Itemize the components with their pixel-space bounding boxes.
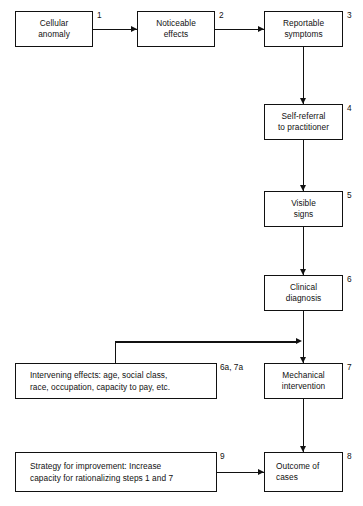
node-reportable-symptoms[interactable]: Reportable symptoms: [264, 11, 343, 47]
node-outcome-of-cases[interactable]: Outcome of cases: [264, 452, 343, 492]
node-label: Intervening effects: age, social class, …: [16, 369, 173, 394]
node-label: Clinical diagnosis: [283, 282, 325, 305]
arrowhead-6a7a-to-7: [296, 338, 302, 344]
node-noticeable-effects[interactable]: Noticeable effects: [137, 11, 215, 47]
node-strategy-for-improvement[interactable]: Strategy for improvement: Increase capac…: [15, 452, 217, 492]
edge-2-to-3: [215, 29, 264, 31]
node-self-referral[interactable]: Self-referral to practitioner: [264, 104, 343, 140]
node-tag-3: 3: [347, 11, 352, 20]
node-tag-6a-7a: 6a, 7a: [220, 363, 243, 372]
edge-4-to-5: [303, 140, 305, 191]
node-label: Mechanical intervention: [279, 370, 329, 393]
node-clinical-diagnosis[interactable]: Clinical diagnosis: [264, 275, 343, 311]
node-tag-1: 1: [97, 11, 102, 20]
edge-6-to-7: [303, 311, 305, 363]
node-label: Noticeable effects: [153, 18, 199, 41]
node-tag-4: 4: [347, 104, 352, 113]
edge-6a7a-riser: [115, 341, 117, 363]
node-label: Reportable symptoms: [280, 18, 327, 41]
node-visible-signs[interactable]: Visible signs: [264, 191, 343, 227]
node-label: Self-referral to practitioner: [275, 111, 332, 134]
flowchart-canvas: Cellular anomaly 1 Noticeable effects 2 …: [0, 0, 363, 506]
edge-3-to-4: [303, 47, 305, 104]
edge-6a7a-run: [115, 341, 297, 343]
node-label: Strategy for improvement: Increase capac…: [16, 460, 176, 485]
node-tag-6: 6: [347, 275, 352, 284]
node-cellular-anomaly[interactable]: Cellular anomaly: [15, 11, 93, 47]
node-intervening-effects[interactable]: Intervening effects: age, social class, …: [15, 363, 217, 399]
node-tag-9: 9: [220, 452, 225, 461]
node-tag-5: 5: [347, 191, 352, 200]
node-tag-8: 8: [347, 452, 352, 461]
node-tag-7: 7: [347, 363, 352, 372]
edge-5-to-6: [303, 227, 305, 275]
node-label: Outcome of cases: [265, 461, 322, 484]
edge-7-to-8: [303, 399, 305, 452]
node-label: Cellular anomaly: [35, 18, 73, 41]
node-label: Visible signs: [288, 198, 319, 221]
node-mechanical-intervention[interactable]: Mechanical intervention: [264, 363, 343, 399]
edge-9-to-8: [217, 472, 264, 474]
node-tag-2: 2: [219, 11, 224, 20]
